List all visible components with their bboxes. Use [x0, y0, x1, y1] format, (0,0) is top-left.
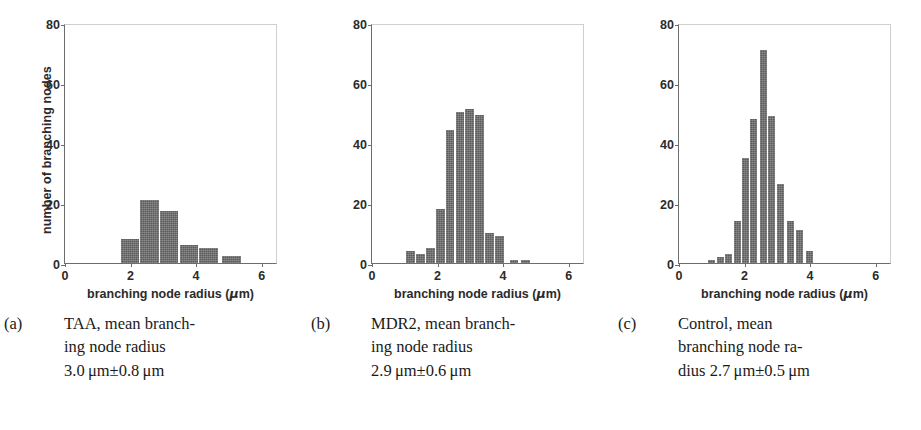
y-tick-mark — [368, 85, 372, 86]
histogram-bar — [121, 239, 139, 263]
x-tick-label: 2 — [127, 269, 134, 283]
plot-taa: number of branching nodes 020406080 0246… — [0, 0, 307, 300]
x-tick-label: 0 — [62, 269, 69, 283]
bar-series-mdr2 — [372, 25, 583, 263]
histogram-bar — [796, 230, 803, 263]
x-axis-label-suffix: m) — [239, 287, 254, 301]
x-axis-label-taa: branching node radius (μm) — [64, 286, 277, 301]
x-tick-mark — [810, 263, 811, 267]
caption-tag-a: (a) — [34, 312, 64, 335]
caption-mdr2-line2: ing node radius — [341, 335, 591, 358]
x-axis-label-control: branching node radius (μm) — [678, 286, 891, 301]
y-tick-mark — [675, 145, 679, 146]
caption-control: (c)Control, mean branching node ra- dius… — [648, 312, 898, 382]
histogram-bar — [222, 256, 240, 264]
histogram-bar — [426, 248, 435, 263]
x-tick-mark — [745, 263, 746, 267]
histogram-bar — [717, 257, 724, 263]
caption-taa: (a)TAA, mean branch- ing node radius 3.0… — [34, 312, 284, 382]
y-tick-label: 0 — [360, 258, 367, 272]
caption-mdr2-line3: 2.9 μm±0.6 μm — [341, 359, 591, 382]
y-tick-label: 0 — [667, 258, 674, 272]
histogram-bar — [406, 251, 415, 263]
y-tick-mark — [368, 145, 372, 146]
x-tick-label: 6 — [872, 269, 879, 283]
panel-taa: number of branching nodes 020406080 0246… — [0, 0, 307, 430]
figure-panels-row: number of branching nodes 020406080 0246… — [0, 0, 921, 430]
caption-control-line3: dius 2.7 μm±0.5 μm — [648, 359, 898, 382]
histogram-bar — [475, 115, 484, 264]
x-axis-label-text: branching node radius ( — [394, 287, 536, 301]
x-tick-label: 6 — [258, 269, 265, 283]
panel-control: 020406080 0246 branching node radius (μm… — [614, 0, 921, 430]
y-tick-mark — [61, 25, 65, 26]
plot-axes-control: 020406080 0246 — [678, 24, 891, 264]
caption-taa-line3: 3.0 μm±0.8 μm — [34, 359, 284, 382]
bar-series-taa — [65, 25, 276, 263]
x-axis-label-text: branching node radius ( — [87, 287, 229, 301]
x-tick-label: 2 — [434, 269, 441, 283]
plot-control: 020406080 0246 branching node radius (μm… — [614, 0, 921, 300]
y-tick-mark — [61, 205, 65, 206]
histogram-bar — [416, 254, 425, 263]
histogram-bar — [456, 112, 465, 264]
histogram-bar — [521, 260, 530, 263]
histogram-bar — [495, 236, 504, 263]
y-tick-mark — [675, 205, 679, 206]
y-tick-mark — [61, 85, 65, 86]
histogram-bar — [777, 184, 784, 264]
caption-a-text1: TAA, mean branch- — [64, 314, 195, 333]
y-tick-label: 80 — [46, 18, 60, 32]
x-tick-mark — [503, 263, 504, 267]
x-tick-label: 2 — [741, 269, 748, 283]
x-axis-label-text: branching node radius ( — [701, 287, 843, 301]
y-tick-mark — [675, 25, 679, 26]
x-tick-mark — [131, 263, 132, 267]
x-tick-mark — [569, 263, 570, 267]
y-tick-label: 60 — [46, 78, 60, 92]
histogram-bar — [160, 211, 178, 264]
x-tick-mark — [372, 263, 373, 267]
y-tick-mark — [368, 205, 372, 206]
histogram-bar — [180, 245, 198, 263]
histogram-bar — [708, 260, 715, 263]
x-axis-label-suffix: m) — [546, 287, 561, 301]
histogram-bar — [787, 221, 794, 263]
histogram-bar — [436, 209, 445, 263]
y-tick-label: 20 — [46, 198, 60, 212]
y-tick-label: 40 — [660, 138, 674, 152]
histogram-bar — [768, 116, 775, 263]
caption-control-line2: branching node ra- — [648, 335, 898, 358]
caption-b-text1: MDR2, mean branch- — [371, 314, 515, 333]
histogram-bar — [485, 233, 494, 263]
y-tick-label: 40 — [353, 138, 367, 152]
y-tick-label: 20 — [660, 198, 674, 212]
caption-control-line1: (c)Control, mean — [648, 312, 898, 335]
histogram-bar — [806, 251, 813, 263]
histogram-bar — [725, 254, 732, 263]
x-tick-mark — [65, 263, 66, 267]
y-tick-label: 60 — [353, 78, 367, 92]
histogram-bar — [760, 50, 767, 263]
x-tick-label: 4 — [193, 269, 200, 283]
y-tick-mark — [675, 85, 679, 86]
caption-taa-line2: ing node radius — [34, 335, 284, 358]
plot-axes-mdr2: 020406080 0246 — [371, 24, 584, 264]
plot-axes-taa: 020406080 0246 — [64, 24, 277, 264]
x-axis-label-suffix: m) — [853, 287, 868, 301]
y-tick-label: 0 — [53, 258, 60, 272]
x-tick-label: 0 — [369, 269, 376, 283]
x-tick-label: 0 — [676, 269, 683, 283]
x-tick-label: 4 — [500, 269, 507, 283]
y-tick-mark — [61, 145, 65, 146]
histogram-bar — [734, 221, 741, 263]
panel-mdr2: 020406080 0246 branching node radius (μm… — [307, 0, 614, 430]
x-tick-mark — [438, 263, 439, 267]
bar-series-control — [679, 25, 890, 263]
x-tick-mark — [679, 263, 680, 267]
histogram-bar — [750, 119, 757, 263]
plot-mdr2: 020406080 0246 branching node radius (μm… — [307, 0, 614, 300]
histogram-bar — [199, 248, 217, 263]
y-tick-label: 40 — [46, 138, 60, 152]
histogram-bar — [446, 130, 455, 264]
